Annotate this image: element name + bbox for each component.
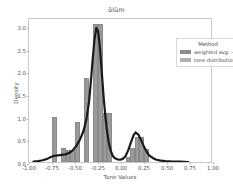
legend-title: Method [180, 41, 233, 47]
x-tick-mark [213, 162, 214, 164]
legend-swatch-weighted-avg [180, 50, 191, 54]
y-axis-label: Density [13, 63, 19, 123]
y-tick-mark [27, 73, 29, 74]
x-tick-label: -1.00 [22, 165, 36, 171]
x-tick-mark [29, 162, 30, 164]
legend-label-tone-distribution: tone distribution: 0.726 [194, 57, 233, 63]
x-tick-label: -0.50 [68, 165, 82, 171]
x-axis-label: Tone Values [28, 174, 212, 180]
chart-figure: ölüm 0.00.51.01.52.02.53.0 -1.00-0.75-0.… [0, 0, 233, 190]
x-tick-label: 0.00 [115, 165, 127, 171]
x-tick-label: 1.00 [207, 165, 219, 171]
x-tick-mark [98, 162, 99, 164]
y-tick-mark [27, 141, 29, 142]
chart-title: ölüm [0, 6, 233, 13]
x-tick-mark [167, 162, 168, 164]
legend-swatch-tone-distribution [180, 58, 191, 62]
y-tick-label: 0.5 [17, 138, 26, 144]
x-tick-label: 0.25 [138, 165, 150, 171]
x-tick-mark [52, 162, 53, 164]
x-tick-mark [75, 162, 76, 164]
y-tick-label: 3.0 [17, 25, 26, 31]
legend-item-tone-distribution: tone distribution: 0.726 [180, 57, 233, 63]
plot-axes: 0.00.51.01.52.02.53.0 -1.00-0.75-0.50-0.… [28, 18, 212, 163]
y-tick-mark [27, 119, 29, 120]
y-tick-mark [27, 28, 29, 29]
y-tick-mark [27, 96, 29, 97]
x-tick-label: 0.75 [184, 165, 196, 171]
legend: Method weighted avg: -0.262 tone distrib… [176, 38, 233, 67]
x-tick-label: 0.50 [161, 165, 173, 171]
x-tick-mark [121, 162, 122, 164]
x-tick-label: -0.25 [91, 165, 105, 171]
legend-item-weighted-avg: weighted avg: -0.262 [180, 49, 233, 55]
y-tick-label: 2.5 [17, 48, 26, 54]
x-tick-label: -0.75 [45, 165, 59, 171]
y-tick-mark [27, 51, 29, 52]
legend-label-weighted-avg: weighted avg: -0.262 [194, 49, 233, 55]
x-tick-mark [144, 162, 145, 164]
x-tick-mark [190, 162, 191, 164]
